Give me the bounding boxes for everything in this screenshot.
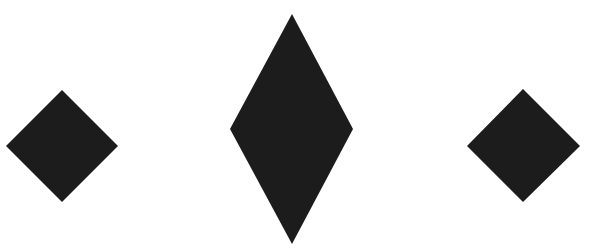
diagram-canvas xyxy=(0,0,593,251)
